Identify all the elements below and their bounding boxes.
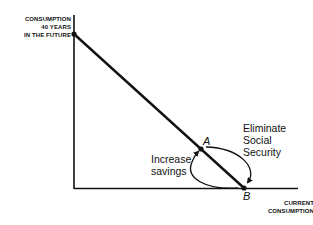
x-axis-label-line: CURRENT bbox=[266, 199, 313, 207]
eliminate-social-security-label: Eliminate Social Security bbox=[243, 122, 286, 158]
y-axis-label-line: IN THE FUTURE bbox=[0, 31, 71, 39]
y-axis-label-line: 40 YEARS bbox=[0, 23, 71, 31]
annotation-line: Security bbox=[243, 146, 286, 158]
annotation-line: Increase bbox=[151, 153, 191, 165]
annotation-line: Social bbox=[243, 134, 286, 146]
point-a-label: A bbox=[203, 135, 210, 147]
point-a bbox=[198, 146, 203, 151]
increase-savings-arrow bbox=[191, 152, 238, 188]
annotation-line: savings bbox=[151, 165, 191, 177]
x-axis-label: CURRENT CONSUMPTION bbox=[266, 199, 313, 215]
intercept-point bbox=[71, 31, 76, 36]
y-axis-label-line: CONSUMPTION bbox=[0, 15, 71, 23]
y-axis-label: CONSUMPTION 40 YEARS IN THE FUTURE bbox=[0, 15, 71, 39]
point-b-label: B bbox=[243, 190, 250, 202]
annotation-line: Eliminate bbox=[243, 122, 286, 134]
x-axis-label-line: CONSUMPTION bbox=[256, 207, 313, 215]
increase-savings-label: Increase savings bbox=[151, 153, 191, 177]
